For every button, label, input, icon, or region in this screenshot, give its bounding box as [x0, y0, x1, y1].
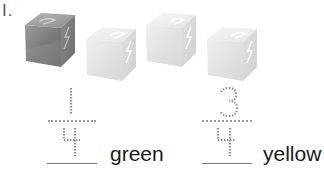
fraction-2-numerator: 3	[204, 86, 254, 118]
problem-number: I.	[2, 1, 13, 21]
fraction-1-label: green	[110, 142, 164, 166]
fraction-1-numerator: 1	[48, 86, 98, 118]
fraction-2-label: yellow	[263, 142, 321, 166]
cube-light	[144, 11, 198, 69]
cube-light	[84, 25, 138, 83]
fraction-2-bar	[202, 120, 252, 122]
fraction-2-denominator: 4	[204, 126, 254, 158]
cube-light	[205, 25, 259, 83]
fraction-1-bar	[48, 120, 96, 122]
cube-dark	[23, 11, 77, 69]
fraction-2-answer-line[interactable]	[202, 163, 252, 164]
fraction-1-denominator: 4	[48, 126, 98, 158]
fraction-1-answer-line[interactable]	[47, 163, 97, 164]
